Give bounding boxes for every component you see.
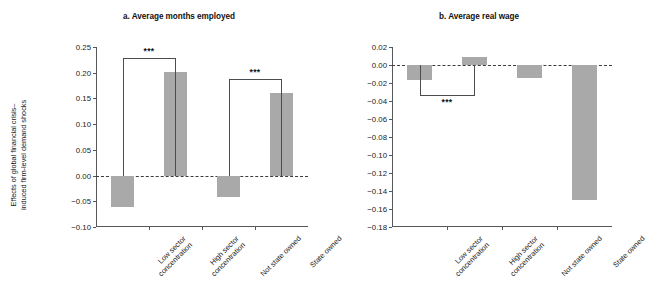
panel-a-xtick-label: Low sectorconcentration: [149, 234, 193, 278]
panel-a-ytick-mark: [93, 73, 96, 74]
panel-b-xtick-label: Low sectorconcentration: [446, 234, 490, 278]
panel-b-ytick-mark: [389, 83, 392, 84]
panel-b-ytick-mark: [389, 137, 392, 138]
xtick-label-line: State owned: [611, 234, 646, 270]
panel-a-y-axis: [96, 47, 97, 227]
panel-b-significance-stars: ***: [441, 97, 452, 107]
panel-a-ytick-mark: [93, 98, 96, 99]
panel-b-ytick-mark: [389, 209, 392, 210]
panel-b-xtick-mark: [447, 227, 448, 230]
panel-b-title: b. Average real wage: [330, 12, 628, 21]
panel-b-ytick-mark: [389, 101, 392, 102]
panel-b-ytick-mark: [389, 173, 392, 174]
y-axis-label-line-2: induced firm-level demand shocks: [19, 100, 29, 210]
panel-a-xtick-label: High sectorconcentration: [202, 234, 246, 278]
panel-a-ytick-mark: [93, 201, 96, 202]
panel-b-bar: [572, 65, 597, 200]
panel-b-ytick-mark: [389, 47, 392, 48]
panel-a-xtick-mark: [149, 227, 150, 230]
panel-a-plot-area: 0.250.200.150.100.050.00−0.05−0.10Low se…: [96, 47, 308, 227]
panel-b-ytick-mark: [389, 191, 392, 192]
panel-b-ytick-mark: [389, 155, 392, 156]
panel-b-ytick-mark: [389, 119, 392, 120]
panel-b-xtick-label: Not state owned: [559, 234, 603, 278]
panel-b-xtick-label: State owned: [611, 234, 646, 270]
panel-a-title: a. Average months employed: [34, 12, 324, 21]
panel-a-xtick-mark: [255, 227, 256, 230]
panel-a-ytick-mark: [93, 227, 96, 228]
panel-a-significance-stars: ***: [143, 46, 154, 56]
xtick-label-line: Not state owned: [258, 234, 302, 278]
panel-a-xtick-label: Not state owned: [258, 234, 302, 278]
panel-a: a. Average months employed 0.250.200.150…: [34, 0, 324, 297]
panel-a-significance-bracket: [229, 79, 282, 176]
panel-a-ytick-mark: [93, 47, 96, 48]
panel-b-xtick-mark: [557, 227, 558, 230]
panel-b-plot-area: 0.020.00−0.02−0.04−0.06−0.08−0.10−0.12−0…: [392, 47, 612, 227]
panel-b-xtick-label: High sectorconcentration: [501, 234, 545, 278]
panel-b-bar: [517, 65, 542, 78]
panel-a-significance-bracket: [123, 58, 176, 175]
y-axis-label: Effects of global financial crisis– indu…: [2, 55, 36, 255]
panel-a-bar: [217, 176, 241, 198]
panel-a-bar: [111, 176, 135, 208]
panel-b-xtick-mark: [502, 227, 503, 230]
panel-a-ytick-mark: [93, 124, 96, 125]
y-axis-label-line-1: Effects of global financial crisis–: [9, 100, 19, 210]
panel-a-xtick-mark: [202, 227, 203, 230]
panel-b-significance-bracket: [420, 65, 475, 96]
panel-b-bar: [462, 57, 487, 65]
panel-a-significance-stars: ***: [249, 67, 260, 77]
panel-b: b. Average real wage 0.020.00−0.02−0.04−…: [330, 0, 628, 297]
panel-b-ytick-mark: [389, 227, 392, 228]
panel-a-ytick-mark: [93, 150, 96, 151]
panel-b-y-axis: [392, 47, 393, 227]
xtick-label-line: Not state owned: [559, 234, 603, 278]
